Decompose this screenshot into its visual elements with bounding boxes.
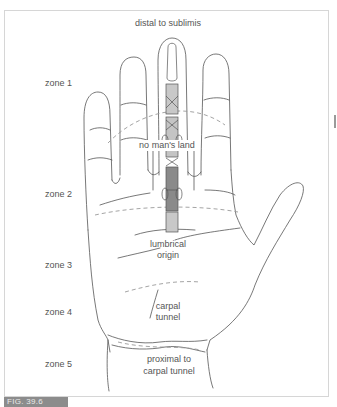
palm-outline [88, 230, 110, 352]
label-carpal-line1: carpal [156, 301, 181, 312]
label-distal-to-sublimis: distal to sublimis [135, 18, 201, 29]
label-no-mans-land: no man's land [138, 140, 196, 151]
little-finger-outline [84, 92, 112, 230]
index-finger-outline [201, 54, 231, 175]
tendon-segment-3 [166, 167, 178, 211]
distal-phalanx-bone [167, 43, 177, 81]
label-carpal-line2: tunnel [156, 312, 181, 323]
zone3-4-boundary [125, 282, 200, 292]
label-lumbrical-line2: origin [157, 250, 179, 261]
zone-label-5: zone 5 [45, 359, 72, 370]
ring-finger-outline [120, 57, 148, 175]
zone-label-1: zone 1 [45, 78, 72, 89]
label-proximal-line1: proximal to [147, 354, 191, 365]
hand-illustration [0, 0, 337, 407]
tendon-segment-1 [166, 84, 178, 114]
wrist-outline [107, 340, 109, 391]
zone-label-2: zone 2 [45, 189, 72, 200]
label-proximal-line2: carpal tunnel [143, 366, 195, 377]
label-lumbrical-line1: lumbrical [150, 239, 186, 250]
tendon-segment-4 [166, 212, 178, 232]
zone-label-3: zone 3 [45, 260, 72, 271]
zone-label-4: zone 4 [45, 307, 72, 318]
figure-label: FIG. 39.6 [4, 397, 68, 407]
